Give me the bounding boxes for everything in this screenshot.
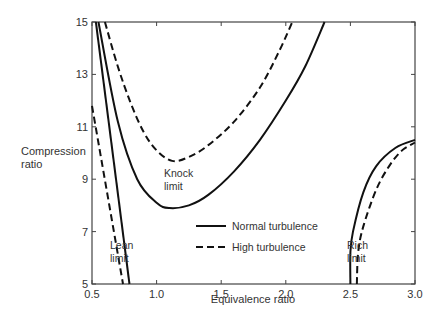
svg-text:Rich: Rich xyxy=(347,239,368,251)
svg-text:limit: limit xyxy=(164,180,183,192)
svg-text:ratio: ratio xyxy=(21,158,42,170)
legend-high-turbulence: High turbulence xyxy=(232,241,306,253)
x-tick-label: 3.0 xyxy=(407,288,422,300)
y-tick-label: 11 xyxy=(77,121,88,133)
y-axis-title: Compression ratio xyxy=(21,145,86,170)
y-tick-label: 15 xyxy=(76,16,88,28)
legend-normal-turbulence: Normal turbulence xyxy=(232,220,318,232)
y-tick-label: 13 xyxy=(76,68,88,80)
svg-text:Knock: Knock xyxy=(164,167,194,179)
x-tick-label: 2.5 xyxy=(343,288,358,300)
knock-limit-high-turbulence-curve xyxy=(105,22,292,161)
annotation-rich-limit: Rich limit xyxy=(347,239,368,264)
annotation-knock-limit: Knock limit xyxy=(164,167,194,192)
y-tick-label: 9 xyxy=(82,173,88,185)
svg-text:Compression: Compression xyxy=(21,145,86,157)
y-tick-label: 7 xyxy=(82,226,88,238)
x-tick-label: 1.0 xyxy=(149,288,164,300)
svg-text:limit: limit xyxy=(110,252,129,264)
annotation-lean-limit: Lean limit xyxy=(110,239,134,264)
knock-limit-normal-turbulence-curve xyxy=(98,22,324,208)
legend: Normal turbulence High turbulence xyxy=(196,220,318,253)
svg-text:limit: limit xyxy=(347,252,366,264)
x-axis-title: Equivalence ratio xyxy=(211,293,295,305)
chart-canvas: 0.51.01.52.02.53.0 579111315 Knock limit… xyxy=(0,0,443,328)
y-tick-label: 5 xyxy=(82,278,88,290)
x-axis-ticks: 0.51.01.52.02.53.0 xyxy=(84,22,422,300)
svg-text:Lean: Lean xyxy=(110,239,134,251)
